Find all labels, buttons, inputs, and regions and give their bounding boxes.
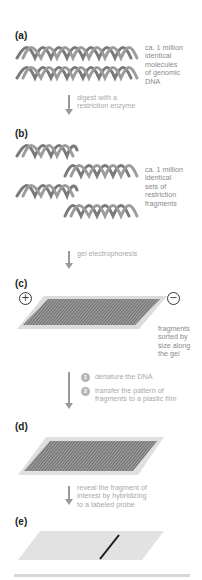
panel-d-label: (d) bbox=[15, 421, 28, 432]
step-number-1-icon: 1 bbox=[81, 373, 90, 382]
arrow-head-icon bbox=[65, 263, 73, 269]
step-denature: denature the DNA bbox=[95, 373, 153, 381]
step-number-2-icon: 2 bbox=[81, 387, 90, 396]
arrow-c-to-d bbox=[68, 372, 70, 404]
step-gel-electrophoresis: gel electrophoresis bbox=[77, 250, 137, 258]
electrophoresis-gel bbox=[14, 293, 169, 333]
probed-film bbox=[14, 530, 169, 562]
panel-c-description: fragments sorted by size along the gel bbox=[158, 325, 190, 359]
step-hybridize: reveal the fragment of interest by hybri… bbox=[77, 484, 147, 509]
panel-a-description: ca. 1 million identical molecules of gen… bbox=[145, 44, 183, 86]
arrow-a-to-b bbox=[68, 95, 70, 110]
panel-c-label: (c) bbox=[15, 278, 27, 289]
arrow-head-icon bbox=[65, 403, 73, 409]
restriction-fragments bbox=[15, 140, 145, 222]
arrow-head-icon bbox=[65, 499, 73, 505]
transfer-film bbox=[14, 435, 169, 477]
genomic-dna-molecules bbox=[15, 42, 140, 82]
panel-e-label: (e) bbox=[15, 516, 27, 527]
step-digest: digest with a restriction enzyme bbox=[77, 94, 135, 111]
arrow-d-to-e bbox=[68, 486, 70, 500]
panel-b-label: (b) bbox=[15, 128, 28, 139]
panel-b-description: ca. 1 million identical sets of restrict… bbox=[145, 166, 183, 208]
panel-a-label: (a) bbox=[15, 30, 27, 41]
arrow-head-icon bbox=[65, 109, 73, 115]
bottom-divider bbox=[14, 574, 190, 577]
step-transfer: transfer the pattern of fragments to a p… bbox=[95, 387, 177, 404]
